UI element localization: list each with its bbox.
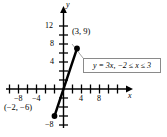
graph-figure: x y −8 −4 4 8 12 8 4 −8 (3, 9) (−2, −6) … [0,0,167,137]
endpoint-dot-upper [74,46,80,52]
y-axis-label: y [66,1,70,9]
equation-callout-box: y = 3x, −2 ≤ x ≤ 3 [83,58,161,73]
x-tick-label-pos4: 4 [79,95,83,103]
equation-text: y = 3x, −2 ≤ x ≤ 3 [93,61,151,70]
y-tick-label-4: 4 [50,58,54,66]
x-tick-label-pos8: 8 [97,95,101,103]
x-tick-label-neg4: −4 [32,95,41,103]
endpoint-dot-lower [52,113,58,119]
y-tick-label-8: 8 [50,40,54,48]
y-tick-label-neg8: −8 [45,121,54,129]
point-label-lower: (−2, −6) [4,103,32,112]
y-tick-label-12: 12 [45,22,53,30]
point-label-upper: (3, 9) [72,27,90,36]
line-segment-y-equals-3x [55,49,78,117]
x-axis-label: x [128,92,132,100]
